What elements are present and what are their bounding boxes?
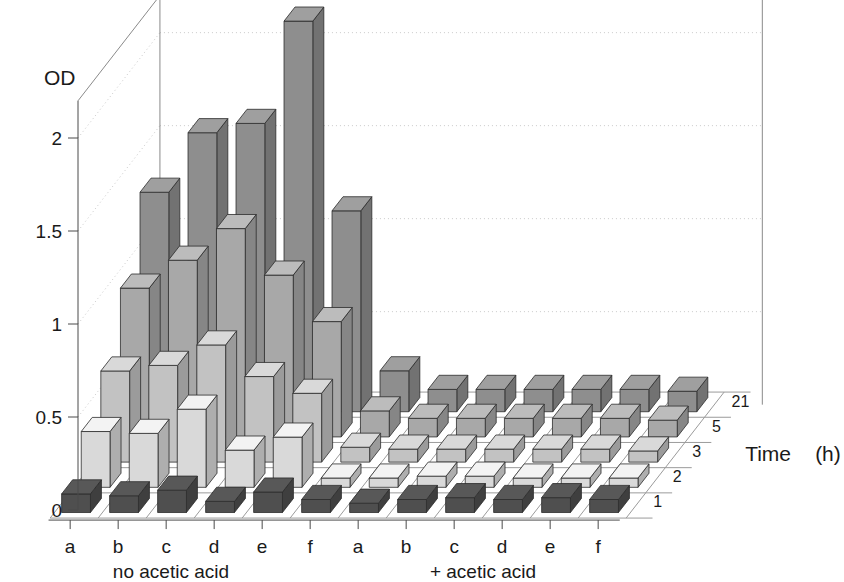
bar-front-face — [456, 418, 485, 437]
bar-3d — [177, 395, 217, 487]
y-axis-title: OD — [44, 66, 76, 89]
bar-3d — [360, 397, 400, 437]
x-axis-category-label: a — [65, 536, 76, 557]
bar-front-face — [81, 432, 110, 488]
bar-3d — [225, 436, 265, 487]
x-axis-category-label: d — [209, 536, 220, 557]
bar-side-face — [341, 307, 352, 436]
bar-front-face — [629, 451, 658, 462]
time-axis-tick-label: 1 — [653, 493, 662, 510]
bar-side-face — [361, 197, 372, 412]
bar-front-face — [552, 418, 581, 437]
bar-front-face — [581, 449, 610, 462]
bar-front-face — [542, 498, 571, 513]
bar-front-face — [533, 449, 562, 462]
top-left-edge — [78, 0, 160, 101]
x-axis-category-label: c — [161, 536, 171, 557]
bar-3d — [417, 462, 457, 487]
bar-3d — [542, 484, 582, 513]
bar-front-face — [504, 418, 533, 437]
time-axis-title: Time — [745, 442, 791, 465]
bar-front-face — [158, 490, 187, 512]
bar-side-face — [206, 395, 217, 487]
bar-3d — [129, 419, 169, 487]
x-axis-category-label: f — [308, 536, 314, 557]
bar-front-face — [446, 498, 475, 513]
bar-3d — [629, 437, 669, 462]
bar-front-face — [110, 496, 139, 513]
bar-front-face — [494, 500, 523, 513]
bar-front-face — [341, 447, 370, 462]
time-axis-tick-label: 21 — [732, 393, 750, 410]
bar-3d — [62, 480, 102, 513]
bar-front-face — [389, 449, 418, 462]
x-axis-category-label: b — [113, 536, 124, 557]
x-axis-category-label: b — [401, 536, 412, 557]
x-axis-category-label: f — [596, 536, 602, 557]
bar-front-face — [398, 500, 427, 513]
bar-front-face — [302, 500, 331, 513]
bar-3d — [552, 404, 592, 437]
y-axis-tick-label: 0 — [51, 500, 62, 521]
bar-3d — [302, 485, 342, 512]
bar-3d — [485, 435, 525, 462]
bar-3d — [158, 476, 198, 512]
bar-3d — [81, 417, 121, 487]
time-axis-unit-label: (h) — [815, 442, 841, 465]
x-axis-category-label: a — [353, 536, 364, 557]
x-axis-group-label-left: no acetic acid — [113, 561, 229, 582]
bar-3d — [581, 435, 621, 462]
bar-front-face — [485, 449, 514, 462]
time-axis-tick-label: 5 — [712, 418, 721, 435]
y-axis-tick-label: 2 — [51, 128, 62, 149]
bar-3d — [398, 485, 438, 512]
bar-3d — [600, 404, 640, 437]
bar-front-face — [225, 450, 254, 487]
bar-front-face — [648, 420, 677, 437]
chart-container: 00.511.52ODabcdefabcdefno acetic acid+ a… — [0, 0, 844, 582]
y-axis-tick-label: 1.5 — [36, 221, 62, 242]
bar-front-face — [206, 501, 235, 512]
bar-3d — [408, 404, 448, 437]
bar-3d — [437, 435, 477, 462]
bar-3d — [254, 478, 294, 513]
bar-front-face — [177, 409, 206, 487]
x-axis-group-label-right: + acetic acid — [430, 561, 536, 582]
bar-front-face — [590, 500, 619, 513]
time-axis-tick-label: 3 — [692, 443, 701, 460]
y-axis-tick-label: 0.5 — [36, 407, 62, 428]
bar-3d — [456, 404, 496, 437]
x-axis-category-label: e — [545, 536, 556, 557]
y-axis-tick-label: 1 — [51, 314, 62, 335]
bar-3d — [446, 484, 486, 513]
x-axis-category-label: d — [497, 536, 508, 557]
bar-front-face — [350, 503, 379, 512]
od-time-3d-bar-chart: 00.511.52ODabcdefabcdefno acetic acid+ a… — [0, 0, 844, 582]
bar-3d — [110, 482, 150, 513]
bar-3d — [494, 485, 534, 512]
bar-front-face — [437, 449, 466, 462]
x-axis-category-label: e — [257, 536, 268, 557]
bar-3d — [533, 435, 573, 462]
bar-front-face — [408, 418, 437, 437]
bar-front-face — [369, 478, 398, 487]
bar-3d — [648, 406, 688, 437]
bar-front-face — [600, 418, 629, 437]
bar-front-face — [254, 492, 283, 512]
bar-3d — [504, 404, 544, 437]
bar-3d — [590, 485, 630, 512]
bar-3d — [206, 487, 246, 512]
x-axis-category-label: c — [449, 536, 459, 557]
bar-front-face — [129, 433, 158, 487]
time-axis-tick-label: 2 — [673, 468, 682, 485]
bars-group — [62, 7, 708, 513]
bar-3d — [341, 433, 381, 462]
bar-3d — [389, 435, 429, 462]
